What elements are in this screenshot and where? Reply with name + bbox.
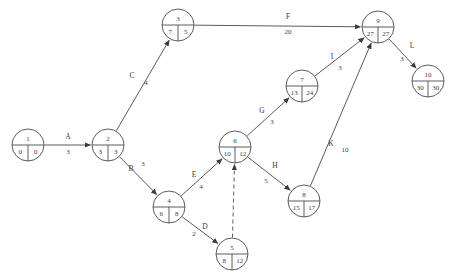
edge-label-c: C [129,71,134,80]
edge-label-h: H [272,161,278,170]
node-early-time-1: 0 [19,148,23,156]
node-late-time-4: 8 [175,210,179,218]
edge-label-f: F [286,12,290,21]
edge-weight-c: 4 [144,79,148,87]
node-early-time-2: 3 [99,148,103,156]
node-id-label-5: 5 [230,244,234,252]
edge-g [247,98,289,136]
node-id-label-2: 2 [106,135,110,143]
node-late-time-7: 24 [306,89,314,97]
edge-label-l: L [410,41,415,50]
node-6[interactable]: 61012 [219,131,251,163]
node-late-time-1: 0 [34,148,38,156]
edge-d [182,217,218,244]
node-late-time-9: 27 [382,30,390,38]
edge-f [194,25,360,27]
node-id-label-1: 1 [26,135,30,143]
node-late-time-10: 30 [432,84,440,92]
node-4[interactable]: 468 [153,191,185,223]
node-early-time-5: 8 [223,257,227,265]
node-10[interactable]: 103030 [412,65,444,97]
edge-label-e: E [192,170,197,179]
edge-labels-layer: A3C4B3F20E4D2G3H5I3K10L3 [65,12,414,238]
node-early-time-9: 27 [367,30,375,38]
node-1[interactable]: 100 [12,129,44,161]
node-id-label-6: 6 [233,137,237,145]
edge-label-g: G [259,106,265,115]
node-early-time-6: 10 [224,150,232,158]
node-early-time-4: 6 [160,210,164,218]
edge-weight-k: 10 [342,146,350,154]
edge-weight-l: 3 [400,55,404,63]
edge-weight-h: 5 [264,177,268,185]
node-late-time-5: 12 [236,257,244,265]
node-early-time-8: 15 [293,204,301,212]
nodes-layer: 1002333754685812610127132481517927271030… [12,9,444,270]
edge-label-a: A [65,132,71,141]
node-early-time-10: 30 [417,84,425,92]
edge-label-i: I [331,52,334,61]
node-9[interactable]: 92727 [362,11,394,43]
edge-label-d: D [202,222,208,231]
node-id-label-7: 7 [300,76,304,84]
edge-label-k: K [328,139,334,148]
edge-b [120,157,157,195]
edge-weight-d: 2 [192,230,196,238]
node-late-time-6: 12 [239,150,247,158]
node-7[interactable]: 71324 [286,70,318,102]
edge-dummy-5-6 [232,164,234,237]
edge-weight-a: 3 [66,148,70,156]
edge-label-b: B [128,164,133,173]
node-id-label-4: 4 [167,197,171,205]
network-diagram: 1002333754685812610127132481517927271030… [0,0,451,277]
edge-weight-b: 3 [141,160,145,168]
node-5[interactable]: 5812 [216,238,248,270]
edge-weight-f: 20 [285,28,293,36]
node-id-label-8: 8 [302,191,306,199]
node-id-label-3: 3 [176,15,180,23]
edge-weight-e: 4 [199,183,203,191]
edge-c [116,40,169,131]
node-early-time-7: 13 [291,89,299,97]
node-3[interactable]: 375 [162,9,194,41]
node-late-time-8: 17 [308,204,316,212]
node-2[interactable]: 233 [92,129,124,161]
node-early-time-3: 7 [169,28,173,36]
edge-h [248,157,290,190]
edge-weight-i: 3 [338,64,342,72]
edge-weight-g: 3 [270,118,274,126]
node-8[interactable]: 81517 [288,185,320,217]
node-late-time-3: 5 [184,28,188,36]
network-diagram-canvas: 1002333754685812610127132481517927271030… [0,0,451,277]
node-id-label-10: 10 [425,71,433,79]
node-id-label-9: 9 [376,17,380,25]
node-late-time-2: 3 [114,148,118,156]
